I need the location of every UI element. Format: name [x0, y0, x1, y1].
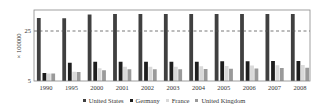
bar-france-2000: [98, 68, 102, 81]
bar-united-kingdom-2001: [128, 69, 132, 81]
bar-united-kingdom-2007: [280, 68, 284, 81]
y-axis-label: × 100000: [15, 34, 22, 59]
bar-germany-2008: [297, 61, 301, 81]
legend-swatch-icon: [130, 99, 133, 102]
bar-france-1990: [47, 74, 51, 82]
x-tick-label: 2000: [90, 84, 103, 91]
bar-france-1995: [72, 72, 76, 81]
bar-france-2004: [199, 66, 203, 81]
bar-france-2007: [276, 65, 280, 81]
legend-swatch-icon: [166, 99, 169, 102]
bar-france-2001: [123, 67, 127, 81]
x-tick-label: 2002: [141, 84, 154, 91]
bar-united-kingdom-2005: [229, 69, 233, 81]
bar-united-states-2005: [215, 14, 219, 81]
bar-france-2006: [250, 66, 254, 82]
legend-label: France: [172, 97, 190, 104]
bar-france-2003: [174, 67, 178, 81]
bar-united-states-2000: [88, 15, 92, 82]
bar-germany-2000: [93, 62, 97, 81]
bar-germany-1990: [43, 73, 47, 81]
x-tick-label: 2008: [294, 84, 307, 91]
bar-germany-2002: [144, 62, 148, 81]
bar-united-states-2002: [139, 14, 143, 81]
x-tick-label: 2003: [167, 84, 180, 91]
x-tick-label: 2005: [217, 84, 230, 91]
bar-united-states-2001: [113, 14, 117, 81]
bar-united-states-2006: [240, 14, 244, 81]
legend-item-france: France: [166, 97, 190, 104]
x-tick-label: 2004: [192, 84, 206, 91]
legend-label: Germany: [136, 97, 160, 104]
bar-united-kingdom-2003: [178, 69, 182, 81]
bar-united-states-2008: [291, 14, 295, 81]
legend-swatch-icon: [195, 99, 198, 102]
bar-united-kingdom-2008: [305, 68, 309, 81]
legend-label: United States: [89, 97, 124, 104]
bar-united-kingdom-1990: [51, 74, 55, 82]
bar-united-kingdom-2002: [153, 69, 157, 81]
legend-item-united-kingdom: United Kingdom: [195, 97, 245, 104]
x-tick-label: 1995: [65, 84, 78, 91]
legend-swatch-icon: [83, 99, 86, 102]
x-tick-label: 2007: [268, 84, 282, 91]
x-axis-ticks: 1990199520002001200220032004200520062007…: [40, 84, 307, 91]
x-tick-label: 1990: [40, 84, 53, 91]
bar-germany-1995: [68, 63, 72, 81]
bar-united-states-1995: [62, 18, 66, 81]
legend-item-united-states: United States: [83, 97, 124, 104]
x-tick-label: 2001: [116, 84, 129, 91]
bar-france-2005: [225, 66, 229, 81]
bar-united-kingdom-2006: [255, 69, 259, 82]
bar-germany-2006: [246, 61, 250, 81]
bar-france-2008: [301, 65, 305, 81]
bar-germany-2005: [220, 61, 224, 81]
legend: United StatesGermanyFranceUnited Kingdom: [0, 96, 328, 104]
bar-united-states-2003: [164, 14, 168, 81]
bar-chart: 525 199019952000200120022003200420052006…: [0, 0, 328, 111]
bar-united-states-2007: [266, 14, 270, 81]
bar-france-2002: [149, 67, 153, 81]
y-axis-ticks: 525: [25, 27, 32, 84]
bar-united-kingdom-2000: [102, 70, 106, 81]
bar-united-states-2004: [189, 14, 193, 81]
bar-germany-2001: [119, 62, 123, 81]
bar-united-kingdom-1995: [77, 72, 81, 81]
x-tick-label: 2006: [243, 84, 257, 91]
bar-united-kingdom-2004: [204, 69, 208, 81]
y-tick-label: 25: [25, 27, 32, 34]
bar-germany-2007: [271, 61, 275, 81]
legend-label: United Kingdom: [201, 97, 245, 104]
bar-germany-2004: [195, 62, 199, 81]
y-tick-label: 5: [28, 77, 31, 84]
bar-germany-2003: [170, 62, 174, 81]
bars-group: [37, 14, 309, 81]
legend-item-germany: Germany: [130, 97, 160, 104]
bar-united-states-1990: [37, 18, 41, 81]
